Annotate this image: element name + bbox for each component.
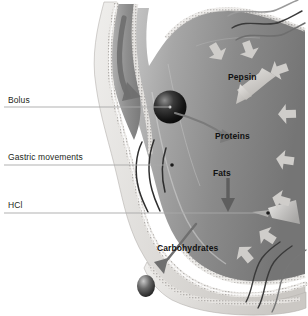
stomach-digestion-figure: Bolus Gastric movements HCl Pepsin Prote… bbox=[0, 0, 308, 316]
inner-label-fats: Fats bbox=[213, 168, 231, 178]
leader-label-hcl: HCl bbox=[8, 200, 22, 210]
chyme-sphere bbox=[137, 275, 155, 297]
leader-label-gastric-movements: Gastric movements bbox=[8, 152, 83, 162]
inner-label-proteins: Proteins bbox=[215, 131, 250, 141]
leader-label-bolus: Bolus bbox=[8, 95, 30, 105]
inner-label-pepsin: Pepsin bbox=[228, 72, 256, 82]
inner-label-carbohydrates: Carbohydrates bbox=[157, 243, 218, 253]
